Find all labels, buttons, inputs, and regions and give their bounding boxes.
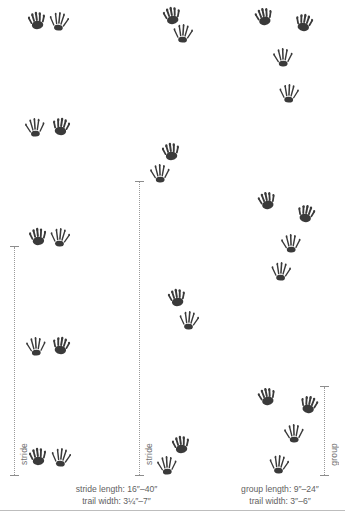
footer-rule [0,510,345,511]
track-hind-icon [49,446,73,470]
measure-line-stride [135,178,144,479]
track-hind-icon [149,163,172,186]
track-hind-icon [283,423,306,446]
track-hind-icon [267,453,291,477]
track-hind-icon [272,47,295,70]
track-front-icon [25,9,50,34]
caption-line: group length: 9″–24″ [218,483,342,495]
track-front-icon [26,445,51,470]
measure-label-group: group [329,443,339,466]
track-hind-icon [171,22,194,45]
track-hind-icon [277,82,300,105]
measure-line-stride [10,243,19,479]
track-hind-icon [48,226,72,250]
track-front-icon [164,285,189,310]
track-hind-icon [23,116,46,139]
caption-left-walk: stride length: 16″–40″trail width: 3¼″–7… [44,483,189,507]
track-front-icon [48,333,73,358]
track-hind-icon [24,335,47,358]
track-hind-icon [280,233,303,256]
track-front-icon [159,140,184,165]
track-hind-icon [177,309,201,333]
measure-label-stride: stride [19,443,29,465]
track-front-icon [26,225,50,249]
track-front-icon [254,384,280,410]
track-front-icon [291,10,316,35]
track-hind-icon [269,260,292,283]
measure-label-stride: stride [144,443,154,465]
track-hind-icon [155,454,178,477]
track-front-icon [251,4,277,30]
track-front-icon [49,115,74,140]
track-pattern-figure: stridestride length: 16″–40″trail width:… [0,0,345,513]
track-hind-icon [47,10,71,34]
track-front-icon [296,392,322,418]
measure-line-group [320,383,329,479]
track-front-icon [254,188,280,214]
caption-line: stride length: 16″–40″ [44,483,189,495]
track-front-icon [293,201,319,227]
caption-right-bound: group length: 9″–24″trail width: 3″–6″ [218,483,342,507]
caption-line: trail width: 3″–6″ [218,495,342,507]
caption-line: trail width: 3¼″–7″ [44,495,189,507]
